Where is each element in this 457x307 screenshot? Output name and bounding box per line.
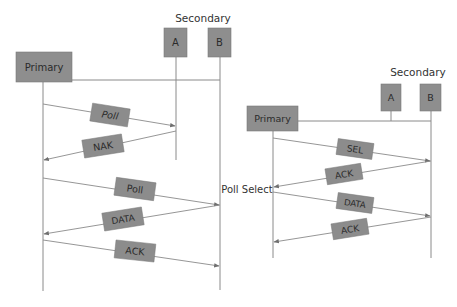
right-msg-ack-2: ACK: [274, 217, 431, 242]
right-msg-data: DATA: [273, 192, 430, 216]
left-station-a-label: A: [172, 37, 179, 48]
left-msg-ack: ACK: [43, 240, 219, 266]
left-station-b: B: [208, 28, 231, 57]
left-msg-poll-a: Poll: [43, 103, 175, 127]
right-station-a-label: A: [388, 92, 395, 103]
right-station-b-label: B: [427, 92, 434, 103]
left-primary-node: Primary: [16, 52, 72, 82]
left-station-a: A: [164, 28, 187, 57]
right-diagram: Secondary Poll Select A B Primary SEL: [221, 66, 446, 258]
right-msg-ack-1: ACK: [274, 161, 431, 187]
left-msg-label: ACK: [125, 245, 146, 258]
left-msg-poll-b: Poll: [43, 177, 219, 205]
right-station-b: B: [420, 84, 441, 111]
left-msg-data: DATA: [44, 205, 220, 234]
left-diagram: Secondary A B Primary Poll: [16, 12, 231, 291]
left-msg-label: Poll: [126, 182, 144, 195]
left-msg-nak: NAK: [44, 131, 176, 160]
right-diagram-title: Poll Select: [221, 184, 272, 195]
poll-select-diagram: Secondary A B Primary Poll: [0, 0, 457, 307]
left-station-b-label: B: [216, 37, 223, 48]
right-station-a: A: [381, 84, 401, 111]
right-primary-node: Primary: [247, 106, 298, 131]
left-primary-label: Primary: [25, 62, 64, 73]
right-primary-label: Primary: [254, 113, 291, 124]
left-secondary-label: Secondary: [175, 12, 231, 24]
right-msg-sel: SEL: [273, 138, 430, 161]
right-secondary-label: Secondary: [390, 66, 446, 78]
